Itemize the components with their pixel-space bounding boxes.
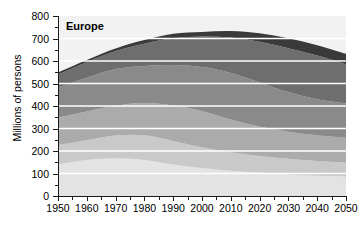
chart-figure: Europe 0100200300400500600700800 1950196… [0, 0, 362, 227]
y-tick-label: 500 [31, 79, 49, 89]
y-tick [53, 174, 58, 175]
x-tick-minor [159, 197, 160, 200]
x-tick [144, 197, 145, 201]
y-tick-minor [55, 117, 58, 118]
x-tick [202, 197, 203, 201]
x-tick-minor [332, 197, 333, 200]
x-tick-label: 2030 [272, 203, 304, 214]
x-tick [346, 197, 347, 201]
y-tick-minor [55, 95, 58, 96]
x-tick [231, 197, 232, 201]
y-tick-minor [55, 162, 58, 163]
x-tick [116, 197, 117, 201]
stacked-area-svg [58, 16, 346, 196]
y-axis-line [58, 16, 59, 197]
x-tick-label: 1960 [71, 203, 103, 214]
y-tick [53, 39, 58, 40]
x-tick-label: 2040 [301, 203, 333, 214]
y-tick-minor [55, 185, 58, 186]
y-tick [53, 106, 58, 107]
y-axis-title: Millions of persons [11, 33, 23, 163]
x-tick [87, 197, 88, 201]
y-tick-label: 800 [31, 11, 49, 21]
x-tick-label: 1970 [100, 203, 132, 214]
x-tick-minor [72, 197, 73, 200]
y-tick-label: 400 [31, 101, 49, 111]
y-tick-label: 200 [31, 146, 49, 156]
x-tick-label: 2010 [215, 203, 247, 214]
y-tick-minor [55, 72, 58, 73]
x-tick [317, 197, 318, 201]
panel-title: Europe [66, 20, 104, 32]
y-tick [53, 61, 58, 62]
y-tick [53, 129, 58, 130]
x-tick-minor [188, 197, 189, 200]
y-tick-label: 700 [31, 34, 49, 44]
y-tick-minor [55, 140, 58, 141]
plot-area [58, 16, 346, 196]
y-tick-label: 0 [43, 191, 49, 201]
y-tick [53, 84, 58, 85]
x-tick-label: 1950 [42, 203, 74, 214]
x-tick-label: 1980 [128, 203, 160, 214]
x-tick [288, 197, 289, 201]
y-tick-label: 300 [31, 124, 49, 134]
x-tick-minor [101, 197, 102, 200]
x-tick-label: 2050 [330, 203, 362, 214]
y-tick-minor [55, 50, 58, 51]
y-tick [53, 16, 58, 17]
x-tick-label: 2000 [186, 203, 218, 214]
x-tick-minor [303, 197, 304, 200]
x-tick-minor [216, 197, 217, 200]
x-tick-minor [245, 197, 246, 200]
x-tick-minor [130, 197, 131, 200]
x-tick [173, 197, 174, 201]
x-tick-label: 2020 [244, 203, 276, 214]
x-tick [58, 197, 59, 201]
y-tick-label: 100 [31, 169, 49, 179]
y-tick-minor [55, 27, 58, 28]
y-tick-label: 600 [31, 56, 49, 66]
x-tick [260, 197, 261, 201]
x-tick-minor [274, 197, 275, 200]
x-tick-label: 1990 [157, 203, 189, 214]
y-tick [53, 151, 58, 152]
